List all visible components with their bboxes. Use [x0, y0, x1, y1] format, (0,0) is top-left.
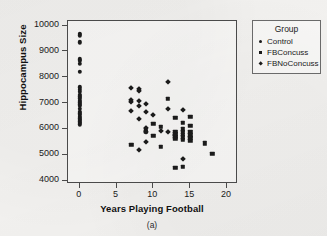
data-point-fbnoconcuss	[150, 112, 156, 118]
data-point-fbnoconcuss	[136, 116, 142, 122]
data-point-fbnoconcuss	[136, 88, 142, 94]
figure-page: 40005000600070008000900010000 05101520 H…	[0, 0, 327, 236]
data-point-fbnoconcuss	[180, 156, 186, 162]
data-point-fbnoconcuss	[165, 106, 171, 112]
legend-entries: ControlFBConcussFBNoConcuss	[256, 36, 317, 69]
data-point-fbnoconcuss	[128, 85, 134, 91]
x-tick-label: 15	[177, 190, 201, 199]
data-point-fbnoconcuss	[128, 108, 134, 114]
diamond-marker-icon	[257, 60, 264, 67]
x-tick-label: 20	[214, 190, 238, 199]
data-point-fbconcuss	[181, 138, 185, 142]
data-point-control	[78, 40, 82, 44]
legend-title: Group	[256, 24, 317, 34]
data-point-fbnoconcuss	[143, 129, 149, 135]
y-tick-label: 5000	[15, 149, 59, 158]
data-point-fbconcuss	[181, 164, 185, 168]
x-tick-label: 0	[67, 190, 91, 199]
data-point-fbconcuss	[166, 97, 170, 101]
data-point-fbnoconcuss	[172, 132, 178, 138]
data-point-fbconcuss	[151, 133, 155, 137]
data-point-fbnoconcuss	[143, 101, 149, 107]
x-tick-mark	[189, 183, 190, 188]
scatter-plot-area	[68, 21, 236, 182]
data-point-fbnoconcuss	[136, 103, 142, 109]
y-axis-title: Hippocampus Size	[17, 8, 28, 128]
y-tick-mark	[62, 154, 67, 155]
x-tick-mark	[226, 183, 227, 188]
y-tick-mark	[62, 25, 67, 26]
data-point-fbconcuss	[173, 115, 177, 119]
data-point-fbconcuss	[173, 166, 177, 170]
y-tick-mark	[62, 102, 67, 103]
data-point-fbnoconcuss	[180, 107, 186, 113]
x-tick-mark	[116, 183, 117, 188]
data-point-fbnoconcuss	[143, 139, 149, 145]
y-tick-mark	[62, 128, 67, 129]
data-point-fbnoconcuss	[136, 147, 142, 153]
x-tick-label: 10	[140, 190, 164, 199]
data-point-control	[78, 61, 82, 65]
legend-item-label: FBNoConcuss	[267, 59, 319, 68]
data-point-fbconcuss	[210, 151, 214, 155]
data-point-fbconcuss	[151, 122, 155, 126]
data-point-fbnoconcuss	[165, 129, 171, 135]
data-point-fbconcuss	[181, 121, 185, 125]
y-tick-mark	[62, 50, 67, 51]
data-point-control	[78, 122, 82, 126]
data-point-control	[78, 33, 82, 37]
data-point-fbconcuss	[188, 115, 192, 119]
legend-item-label: FBConcuss	[267, 48, 308, 57]
legend-item-fbconcuss[interactable]: FBConcuss	[256, 47, 317, 58]
y-tick-mark	[62, 76, 67, 77]
figure-caption: (a)	[67, 220, 237, 230]
data-point-fbconcuss	[188, 124, 192, 128]
data-point-fbconcuss	[129, 143, 133, 147]
data-point-fbnoconcuss	[158, 128, 164, 134]
plot-frame	[67, 20, 237, 183]
y-tick-label: 4000	[15, 175, 59, 184]
x-tick-mark	[152, 183, 153, 188]
data-point-fbnoconcuss	[165, 79, 171, 85]
data-point-fbconcuss	[203, 141, 207, 145]
x-tick-label: 5	[104, 190, 128, 199]
y-tick-mark	[62, 180, 67, 181]
data-point-fbconcuss	[188, 139, 192, 143]
data-point-fbconcuss	[159, 145, 163, 149]
circle-marker-icon	[257, 38, 264, 45]
legend-item-label: Control	[267, 37, 293, 46]
legend-item-fbnoconcuss[interactable]: FBNoConcuss	[256, 58, 317, 69]
data-point-fbnoconcuss	[143, 109, 149, 115]
x-axis-title: Years Playing Football	[67, 203, 237, 214]
x-tick-mark	[79, 183, 80, 188]
legend: Group ControlFBConcussFBNoConcuss	[252, 20, 321, 74]
square-marker-icon	[257, 49, 264, 56]
legend-item-control[interactable]: Control	[256, 36, 317, 47]
data-point-control	[78, 70, 82, 74]
